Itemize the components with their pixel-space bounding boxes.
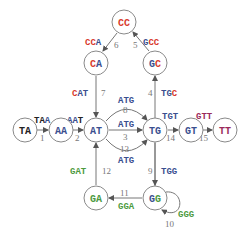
svg-text:CC: CC bbox=[118, 18, 130, 29]
svg-text:TG: TG bbox=[149, 126, 161, 137]
edge-number-2: 2 bbox=[75, 133, 80, 143]
node-AA: AA bbox=[49, 118, 73, 142]
edge-label-6: CCA bbox=[85, 38, 102, 48]
node-GG: GG bbox=[143, 186, 167, 210]
node-GT: GT bbox=[179, 118, 203, 142]
edge-number-12: 12 bbox=[102, 166, 111, 176]
svg-text:AA: AA bbox=[55, 126, 67, 137]
node-TG: TG bbox=[143, 118, 167, 142]
de-bruijn-graph-diagram: TAA AAT ATG ATG ATG TGC GCC CCA CAT TGG … bbox=[0, 0, 245, 241]
node-GA: GA bbox=[84, 186, 108, 210]
node-AT: AT bbox=[84, 118, 108, 142]
graph-canvas: TAA AAT ATG ATG ATG TGC GCC CCA CAT TGG … bbox=[0, 0, 245, 241]
svg-text:GG: GG bbox=[149, 194, 161, 205]
edge-number-1: 1 bbox=[40, 133, 45, 143]
edge-label-4: TGC bbox=[161, 89, 178, 99]
edge-label-11: GGA bbox=[118, 202, 135, 212]
node-GC: GC bbox=[143, 51, 167, 75]
edge-label-1: TAA bbox=[34, 116, 51, 126]
edge-number-11: 11 bbox=[120, 188, 129, 198]
node-TA: TA bbox=[13, 118, 37, 142]
svg-text:TT: TT bbox=[219, 126, 231, 137]
edge-number-10: 10 bbox=[165, 219, 175, 229]
edge-number-9: 9 bbox=[148, 166, 153, 176]
edge-number-14: 14 bbox=[166, 133, 176, 143]
node-TT: TT bbox=[213, 118, 237, 142]
edge-label-12: GAT bbox=[70, 167, 87, 177]
edge-number-13: 13 bbox=[120, 144, 130, 154]
edge-number-7: 7 bbox=[101, 88, 106, 98]
edge-label-10: GGG bbox=[178, 210, 194, 220]
edge-label-3: ATG bbox=[118, 120, 134, 130]
svg-text:GA: GA bbox=[90, 194, 102, 205]
svg-text:TA: TA bbox=[19, 126, 31, 137]
edge-label-7: CAT bbox=[72, 89, 89, 99]
edge-number-5: 5 bbox=[133, 40, 138, 50]
svg-text:CA: CA bbox=[90, 59, 102, 70]
edge-number-4: 4 bbox=[148, 88, 153, 98]
edge-label-14: TGT bbox=[162, 112, 179, 122]
node-CC: CC bbox=[112, 10, 136, 34]
edge-label-9: TGG bbox=[161, 167, 177, 177]
svg-text:GT: GT bbox=[185, 126, 197, 137]
edge-label-5: GCC bbox=[143, 38, 160, 48]
svg-text:AT: AT bbox=[90, 126, 102, 137]
edge-label-13: ATG bbox=[118, 156, 134, 166]
edge-number-6: 6 bbox=[114, 40, 119, 50]
edge-number-3: 3 bbox=[123, 132, 128, 142]
edge-number-8: 8 bbox=[123, 105, 128, 115]
svg-text:GC: GC bbox=[149, 59, 161, 70]
node-CA: CA bbox=[84, 51, 108, 75]
